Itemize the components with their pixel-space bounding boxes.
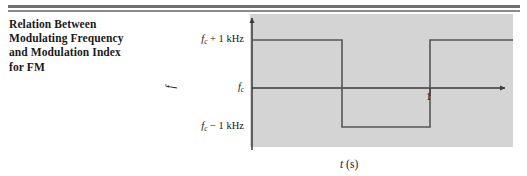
caption-line-1: Relation Between — [9, 17, 159, 31]
y-tick-center-text: fc — [238, 81, 244, 92]
y-axis-title: f — [164, 85, 176, 88]
y-tick-label-high: fc + 1 kHz — [160, 33, 244, 44]
x-tick-label-1: 1 — [426, 91, 431, 102]
x-axis-title: t (s) — [340, 158, 358, 170]
caption-line-4: for FM — [9, 60, 159, 74]
figure-root: Relation Between Modulating Frequency an… — [0, 0, 527, 176]
caption-line-2: Modulating Frequency — [9, 31, 159, 45]
top-rule-thick — [8, 5, 520, 8]
y-tick-label-low: fc − 1 kHz — [160, 120, 244, 131]
caption-line-3: and Modulation Index — [9, 45, 159, 59]
figure-caption: Relation Between Modulating Frequency an… — [9, 17, 159, 74]
y-tick-low-text: fc − 1 kHz — [201, 120, 244, 131]
frequency-waveform — [252, 40, 513, 127]
x-axis-title-unit: (s) — [346, 158, 358, 170]
chart-region: fc + 1 kHz fc fc − 1 kHz 1 f t (s) — [160, 10, 527, 176]
y-tick-high-text: fc + 1 kHz — [201, 33, 244, 44]
